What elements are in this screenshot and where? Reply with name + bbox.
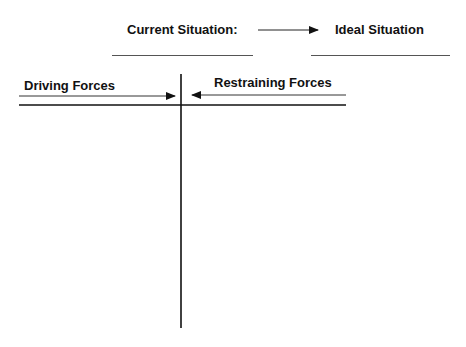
force-field-diagram — [0, 0, 466, 347]
